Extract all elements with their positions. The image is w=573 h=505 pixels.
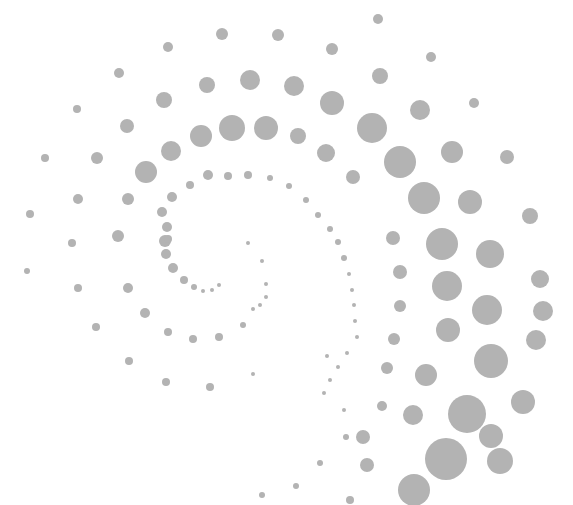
spiral-dot <box>355 335 359 339</box>
spiral-dot <box>377 401 387 411</box>
spiral-dot <box>216 28 228 40</box>
spiral-dot <box>350 288 354 292</box>
spiral-dot <box>210 288 214 292</box>
spiral-dot <box>260 259 264 263</box>
spiral-dot <box>284 76 304 96</box>
spiral-dot <box>458 190 482 214</box>
spiral-dot <box>217 283 221 287</box>
spiral-dot <box>199 77 215 93</box>
spiral-dot <box>162 222 172 232</box>
spiral-dot <box>500 150 514 164</box>
spiral-dot <box>286 183 292 189</box>
spiral-dot <box>186 181 194 189</box>
spiral-dot <box>531 270 549 288</box>
spiral-dot <box>426 52 436 62</box>
spiral-dot <box>251 307 255 311</box>
spiral-dot <box>290 128 306 144</box>
spiral-dot <box>258 303 262 307</box>
spiral-dot <box>135 161 157 183</box>
spiral-dot <box>120 119 134 133</box>
spiral-dot <box>206 383 214 391</box>
spiral-dot <box>448 395 486 433</box>
spiral-dot <box>180 276 188 284</box>
spiral-dot <box>315 212 321 218</box>
spiral-dot <box>219 115 245 141</box>
spiral-dot <box>336 365 340 369</box>
spiral-dot <box>432 271 462 301</box>
spiral-dot <box>393 265 407 279</box>
spiral-dot <box>74 284 82 292</box>
spiral-dot <box>164 235 172 243</box>
spiral-dot <box>327 226 333 232</box>
spiral-dot <box>347 272 351 276</box>
spiral-dot <box>533 301 553 321</box>
spiral-dot <box>112 230 124 242</box>
spiral-dot <box>114 68 124 78</box>
spiral-dot <box>244 171 252 179</box>
spiral-dot <box>325 354 329 358</box>
spiral-dot <box>259 492 265 498</box>
spiral-dot <box>326 43 338 55</box>
spiral-dot <box>408 182 440 214</box>
spiral-dot <box>251 372 255 376</box>
spiral-dot <box>24 268 30 274</box>
spiral-dot <box>425 438 467 480</box>
spiral-dot <box>73 105 81 113</box>
spiral-dot <box>322 391 326 395</box>
spiral-dot <box>343 434 349 440</box>
spiral-dot <box>388 333 400 345</box>
spiral-dot <box>328 378 332 382</box>
spiral-dot <box>161 141 181 161</box>
spiral-dot <box>140 308 150 318</box>
spiral-dot <box>346 170 360 184</box>
spiral-dot <box>341 255 347 261</box>
spiral-dot <box>345 351 349 355</box>
spiral-dot <box>215 333 223 341</box>
spiral-dot <box>426 228 458 260</box>
spiral-dot <box>168 263 178 273</box>
spiral-dot <box>41 154 49 162</box>
spiral-dot <box>68 239 76 247</box>
spiral-dot <box>342 408 346 412</box>
spiral-dot <box>240 70 260 90</box>
spiral-dot <box>381 362 393 374</box>
spiral-dot <box>191 284 197 290</box>
spiral-dot <box>357 113 387 143</box>
spiral-dot <box>272 29 284 41</box>
spiral-dot <box>394 300 406 312</box>
spiral-dot <box>73 194 83 204</box>
spiral-dot <box>240 322 246 328</box>
dot-spiral-graphic <box>0 0 573 505</box>
spiral-dot <box>398 474 430 505</box>
spiral-dot <box>356 430 370 444</box>
spiral-dot <box>317 460 323 466</box>
spiral-dot <box>189 335 197 343</box>
spiral-dot <box>472 295 502 325</box>
spiral-dot <box>246 241 250 245</box>
spiral-dot <box>410 100 430 120</box>
spiral-dot <box>162 378 170 386</box>
spiral-dot <box>293 483 299 489</box>
spiral-dot <box>476 240 504 268</box>
spiral-dot <box>353 319 357 323</box>
spiral-dot <box>161 249 171 259</box>
spiral-dot <box>474 344 508 378</box>
spiral-dot <box>317 144 335 162</box>
spiral-dot <box>264 295 268 299</box>
spiral-dot <box>384 146 416 178</box>
spiral-dot <box>469 98 479 108</box>
spiral-dot <box>163 42 173 52</box>
spiral-dot <box>522 208 538 224</box>
spiral-dot <box>386 231 400 245</box>
spiral-dot <box>360 458 374 472</box>
spiral-dot <box>403 405 423 425</box>
spiral-dot <box>254 116 278 140</box>
spiral-dot <box>91 152 103 164</box>
spiral-dot <box>156 92 172 108</box>
spiral-dot <box>167 192 177 202</box>
spiral-dot <box>479 424 503 448</box>
spiral-dot <box>415 364 437 386</box>
spiral-dot <box>372 68 388 84</box>
spiral-dot <box>92 323 100 331</box>
spiral-dot <box>26 210 34 218</box>
